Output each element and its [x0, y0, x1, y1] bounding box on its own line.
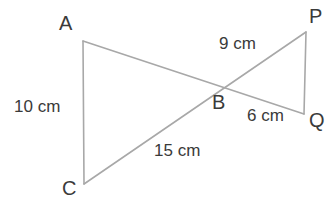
geometry-diagram: A C B P Q 10 cm 9 cm 6 cm 15 cm: [0, 0, 331, 200]
vertex-label-q: Q: [309, 110, 325, 130]
vertex-label-b: B: [212, 92, 225, 112]
measure-label-bq: 6 cm: [247, 107, 284, 124]
measure-label-cb: 15 cm: [154, 142, 200, 159]
segment-AC: [83, 41, 84, 184]
segment-PQ: [304, 32, 306, 114]
measure-label-bp: 9 cm: [219, 35, 256, 52]
segment-AQ: [83, 41, 304, 114]
vertex-label-a: A: [59, 13, 72, 33]
vertex-label-p: P: [309, 6, 322, 26]
vertex-label-c: C: [62, 178, 76, 198]
measure-label-ac: 10 cm: [14, 98, 60, 115]
